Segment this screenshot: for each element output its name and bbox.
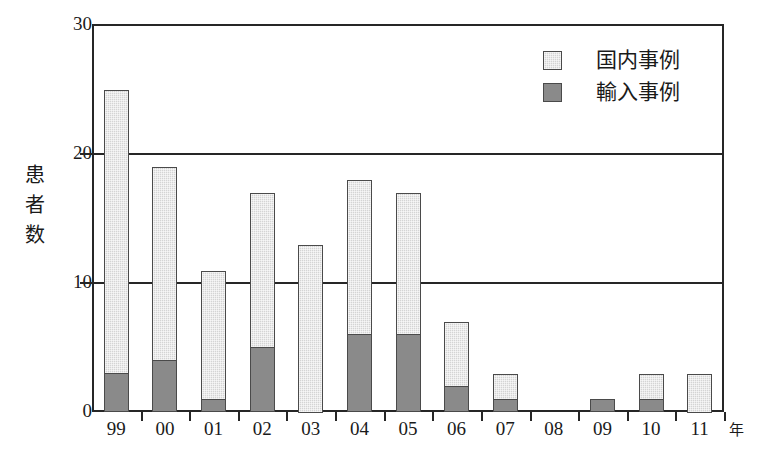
x-axis-unit-label: 年 (729, 421, 744, 439)
legend-label-imported: 輸入事例 (596, 81, 680, 103)
legend-swatch-domestic-icon (543, 51, 562, 70)
legend-swatch-imported-icon (543, 83, 562, 102)
y-axis-title-char-3: 数 (18, 220, 52, 250)
bar-segment-domestic (493, 374, 518, 400)
bar-column (298, 245, 323, 412)
bar-segment-domestic (250, 193, 275, 348)
legend: 国内事例 輸入事例 (543, 44, 728, 108)
y-tick-label-30: 30 (56, 14, 92, 33)
x-tick-mark (724, 412, 726, 421)
bar-chart: 患 者 数 30 20 10 0 99000102030405060708091… (0, 0, 759, 452)
y-axis-title: 患 者 数 (18, 160, 52, 250)
bar-segment-imported (639, 399, 664, 412)
bar-segment-imported (201, 399, 226, 412)
bar-segment-domestic (444, 322, 469, 387)
legend-item-imported: 輸入事例 (543, 76, 728, 108)
bar-segment-imported (444, 386, 469, 412)
bar-segment-domestic (201, 271, 226, 400)
x-tick-label: 11 (677, 418, 723, 440)
y-tick-mark-20 (80, 153, 92, 155)
x-tick-label: 09 (579, 418, 625, 440)
y-tick-label-0: 0 (56, 401, 92, 420)
bar-segment-imported (250, 347, 275, 412)
x-tick-label: 99 (93, 418, 139, 440)
y-axis-title-char-1: 患 (18, 160, 52, 190)
bar-column (444, 322, 469, 412)
x-tick-label: 06 (434, 418, 480, 440)
x-tick-label: 10 (628, 418, 674, 440)
legend-item-domestic: 国内事例 (543, 44, 728, 76)
bar-segment-imported (396, 334, 421, 412)
bar-segment-domestic (347, 180, 372, 335)
x-tick-label: 08 (531, 418, 577, 440)
bar-segment-domestic (396, 193, 421, 335)
legend-label-domestic: 国内事例 (596, 49, 680, 71)
x-tick-label: 05 (385, 418, 431, 440)
bar-segment-domestic (298, 245, 323, 413)
bar-column (639, 374, 664, 412)
bar-segment-domestic (639, 374, 664, 400)
bar-column (104, 90, 129, 412)
x-tick-label: 03 (288, 418, 334, 440)
x-tick-label: 00 (142, 418, 188, 440)
y-tick-mark-10 (80, 282, 92, 284)
bar-column (201, 271, 226, 412)
bar-column (493, 374, 518, 412)
x-tick-label: 02 (239, 418, 285, 440)
bar-column (250, 193, 275, 412)
bar-segment-imported (493, 399, 518, 412)
bar-column (590, 399, 615, 412)
bar-segment-imported (590, 399, 615, 412)
bar-segment-imported (152, 360, 177, 412)
bar-column (396, 193, 421, 412)
x-tick-label: 01 (191, 418, 237, 440)
bar-column (347, 180, 372, 412)
bar-segment-imported (347, 334, 372, 412)
bar-column (152, 167, 177, 412)
x-tick-label: 04 (336, 418, 382, 440)
bar-column (687, 374, 712, 412)
x-tick-label: 07 (482, 418, 528, 440)
bar-segment-domestic (152, 167, 177, 361)
bar-segment-domestic (104, 90, 129, 375)
y-axis-title-char-2: 者 (18, 190, 52, 220)
bar-segment-domestic (687, 374, 712, 413)
bar-segment-imported (104, 373, 129, 412)
